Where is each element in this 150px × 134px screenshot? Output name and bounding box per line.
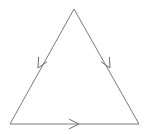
triangle-diagram <box>0 0 150 134</box>
left-edge <box>10 9 74 124</box>
figure-canvas <box>0 0 150 134</box>
arrow-markers-group <box>38 57 110 129</box>
right-edge <box>74 9 139 124</box>
edges-group <box>10 9 139 124</box>
